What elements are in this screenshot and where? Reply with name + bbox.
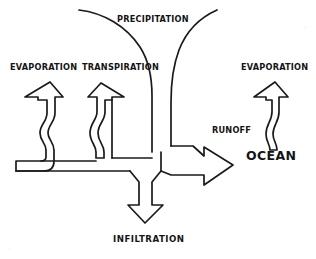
water-cycle-diagram: PRECIPITATION EVAPORATION TRANSPIRATION … xyxy=(0,0,316,259)
precipitation-arc-right xyxy=(171,10,217,146)
diagram-canvas xyxy=(0,0,316,259)
label-precipitation: PRECIPITATION xyxy=(117,14,189,23)
label-evaporation-right: EVAPORATION xyxy=(241,62,308,71)
evaporation-arrow-left xyxy=(16,82,63,171)
transpiration-arrow xyxy=(88,83,124,158)
label-runoff: RUNOFF xyxy=(212,125,251,134)
label-ocean: OCEAN xyxy=(246,150,296,163)
evaporation-arrow-right xyxy=(254,82,288,150)
label-transpiration: TRANSPIRATION xyxy=(82,62,159,71)
label-infiltration: INFILTRATION xyxy=(113,234,185,243)
runoff-arrow xyxy=(161,146,233,185)
label-evaporation-left: EVAPORATION xyxy=(10,62,77,71)
infiltration-arrow xyxy=(128,171,163,223)
